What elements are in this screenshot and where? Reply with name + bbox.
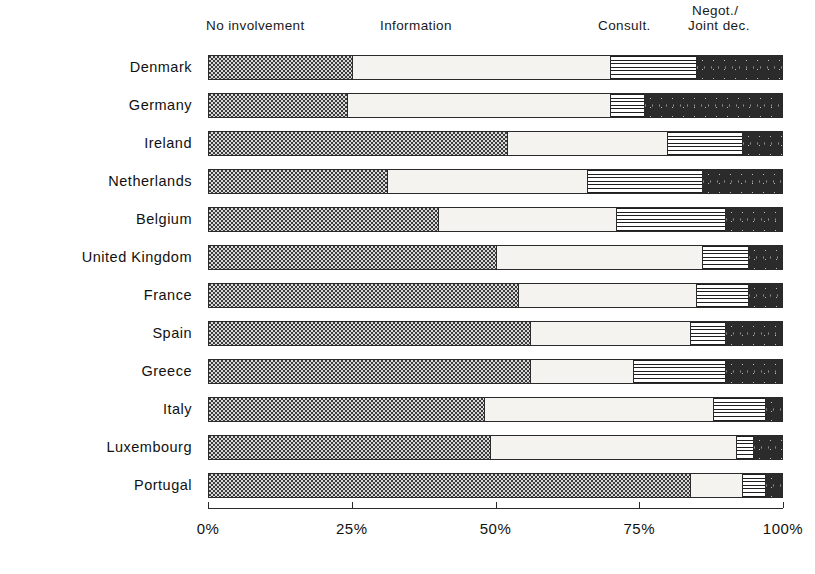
bar-segment <box>702 170 782 193</box>
bar-row: Luxembourg <box>0 428 815 466</box>
legend-label-no-involvement: No involvement <box>206 18 305 33</box>
bar-segment <box>209 94 347 117</box>
stacked-bar <box>208 207 783 232</box>
x-axis-tick <box>783 502 784 508</box>
bar-segment <box>748 246 782 269</box>
bar-segment <box>765 474 782 497</box>
bar-rows: DenmarkGermanyIrelandNetherlandsBelgiumU… <box>0 48 815 504</box>
legend-label-negotiation-line1: Negot./ <box>692 3 738 18</box>
stacked-bar <box>208 435 783 460</box>
bar-segment <box>736 436 753 459</box>
bar-segment <box>484 398 713 421</box>
x-axis-tick <box>208 502 209 508</box>
bar-segment <box>753 436 782 459</box>
bar-segment <box>209 208 438 231</box>
bar-row: Spain <box>0 314 815 352</box>
stacked-bar <box>208 321 783 346</box>
bar-segment <box>507 132 667 155</box>
bar-row: France <box>0 276 815 314</box>
bar-segment <box>725 322 782 345</box>
bar-row: Portugal <box>0 466 815 504</box>
bar-row-label: France <box>0 276 192 314</box>
bar-row: Germany <box>0 86 815 124</box>
legend-label-information: Information <box>380 18 452 33</box>
bar-segment <box>490 436 736 459</box>
bar-row-label: Italy <box>0 390 192 428</box>
bar-row-label: Spain <box>0 314 192 352</box>
bar-segment <box>644 94 782 117</box>
bar-segment <box>518 284 696 307</box>
x-axis-tick <box>639 502 640 508</box>
x-axis-line <box>208 508 783 509</box>
x-axis-tick-label: 100% <box>763 520 803 537</box>
stacked-bar <box>208 283 783 308</box>
bar-segment <box>696 56 782 79</box>
stacked-bar <box>208 169 783 194</box>
bar-segment <box>690 474 742 497</box>
bar-segment <box>209 398 484 421</box>
bar-row-label: Greece <box>0 352 192 390</box>
stacked-bar <box>208 473 783 498</box>
bar-segment <box>438 208 616 231</box>
bar-segment <box>610 56 696 79</box>
bar-segment <box>209 132 507 155</box>
legend-label-consult: Consult. <box>598 18 651 33</box>
bar-segment <box>352 56 610 79</box>
bar-segment <box>713 398 765 421</box>
x-axis-tick-label: 25% <box>336 520 368 537</box>
x-axis-tick <box>496 502 497 508</box>
bar-segment <box>347 94 611 117</box>
bar-row-label: Germany <box>0 86 192 124</box>
stacked-bar <box>208 131 783 156</box>
bar-row: Belgium <box>0 200 815 238</box>
bar-row-label: Belgium <box>0 200 192 238</box>
x-axis-tick <box>352 502 353 508</box>
stacked-bar <box>208 359 783 384</box>
bar-row: United Kingdom <box>0 238 815 276</box>
x-axis: 0%25%50%75%100% <box>0 508 815 564</box>
bar-segment <box>209 284 518 307</box>
bar-row: Netherlands <box>0 162 815 200</box>
bar-row-label: Ireland <box>0 124 192 162</box>
bar-row-label: Denmark <box>0 48 192 86</box>
bar-segment <box>530 322 690 345</box>
stacked-bar <box>208 93 783 118</box>
plot-area: DenmarkGermanyIrelandNetherlandsBelgiumU… <box>0 48 815 520</box>
bar-segment <box>610 94 644 117</box>
bar-segment <box>725 208 782 231</box>
bar-segment <box>765 398 782 421</box>
bar-row-label: Luxembourg <box>0 428 192 466</box>
legend-label-negotiation-line2: Joint dec. <box>688 18 750 33</box>
bar-segment <box>209 322 530 345</box>
bar-row: Italy <box>0 390 815 428</box>
bar-row-label: Netherlands <box>0 162 192 200</box>
bar-segment <box>616 208 725 231</box>
stacked-bar-chart: No involvement Information Consult. Nego… <box>0 0 815 574</box>
bar-segment <box>742 132 782 155</box>
bar-segment <box>209 56 352 79</box>
bar-segment <box>209 360 530 383</box>
bar-segment <box>633 360 725 383</box>
bar-row: Greece <box>0 352 815 390</box>
bar-segment <box>496 246 702 269</box>
bar-segment <box>725 360 782 383</box>
x-axis-tick-label: 0% <box>197 520 220 537</box>
chart-legend-headers: No involvement Information Consult. Nego… <box>0 0 815 48</box>
bar-row-label: Portugal <box>0 466 192 504</box>
stacked-bar <box>208 397 783 422</box>
bar-segment <box>702 246 748 269</box>
stacked-bar <box>208 55 783 80</box>
bar-segment <box>690 322 724 345</box>
bar-segment <box>742 474 765 497</box>
bar-segment <box>209 436 490 459</box>
bar-segment <box>209 474 690 497</box>
x-axis-tick-label: 50% <box>480 520 512 537</box>
bar-segment <box>209 170 387 193</box>
bar-segment <box>530 360 633 383</box>
stacked-bar <box>208 245 783 270</box>
bar-segment <box>209 246 496 269</box>
bar-segment <box>667 132 741 155</box>
bar-segment <box>587 170 702 193</box>
bar-row: Ireland <box>0 124 815 162</box>
bar-segment <box>387 170 588 193</box>
